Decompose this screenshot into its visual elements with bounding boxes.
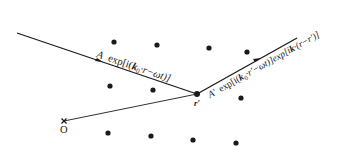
scatterer-dot xyxy=(238,95,243,100)
scatterer-lattice xyxy=(105,39,249,145)
scattering-diagram: A exp[i(k0·r−ωt)] A′ exp[i(k0·r′−ωt)]exp… xyxy=(0,0,354,155)
scattering-point xyxy=(194,91,200,97)
scatterer-dot xyxy=(107,83,112,88)
scattered-wave-label: A′ exp[i(k0·r′−ωt)]exp[ik·(r−r′)] xyxy=(205,29,322,101)
scattered-ray xyxy=(197,38,297,94)
scatterer-dot xyxy=(233,140,238,145)
scatterer-dot xyxy=(244,49,249,54)
scatterer-dot xyxy=(190,137,195,142)
origin-label: O xyxy=(60,124,68,135)
scatterer-dot xyxy=(105,130,110,135)
scatterer-dot xyxy=(148,133,153,138)
position-vector-line xyxy=(64,94,197,121)
scatterer-dot xyxy=(154,42,159,47)
incident-ray xyxy=(17,33,197,94)
scatterer-dot xyxy=(150,87,155,92)
scatterer-dot xyxy=(206,45,211,50)
incident-wave-label: A exp[i(k0·r−ωt)] xyxy=(94,48,173,86)
scatterer-dot xyxy=(111,39,116,44)
scatter-point-label: r′ xyxy=(194,98,201,108)
